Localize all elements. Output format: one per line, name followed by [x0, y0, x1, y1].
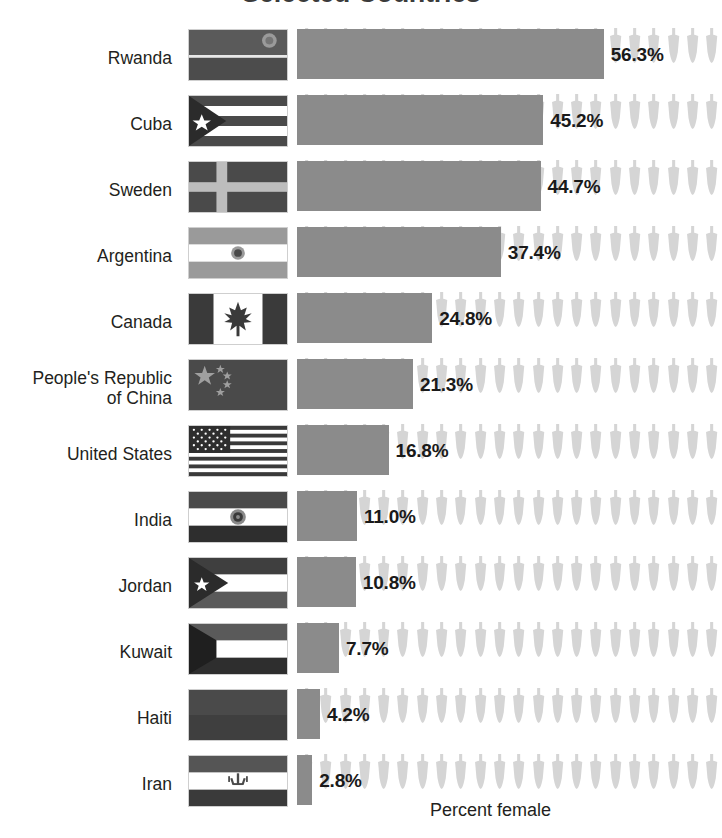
value-bar	[297, 359, 413, 409]
rwanda-flag	[188, 29, 288, 81]
value-bar	[297, 227, 501, 277]
person-icon	[471, 424, 490, 470]
person-icon	[490, 688, 509, 734]
person-icon	[567, 226, 586, 272]
person-icon	[509, 688, 528, 734]
person-icon	[509, 490, 528, 536]
china-flag	[188, 359, 288, 411]
pictogram-strip	[297, 490, 722, 542]
person-icon	[625, 358, 644, 404]
person-icon	[606, 160, 625, 206]
person-icon	[490, 622, 509, 668]
person-icon	[451, 556, 470, 602]
value-label: 37.4%	[508, 242, 561, 264]
person-icon	[683, 424, 702, 470]
person-icon	[586, 226, 605, 272]
person-icon	[683, 94, 702, 140]
person-icon	[393, 622, 412, 668]
jordan-flag	[188, 557, 288, 609]
person-icon	[625, 490, 644, 536]
person-icon	[625, 292, 644, 338]
value-label: 21.3%	[420, 374, 473, 396]
person-icon	[529, 424, 548, 470]
person-icon	[625, 688, 644, 734]
value-bar	[297, 689, 320, 739]
chart-row: Cuba	[0, 91, 722, 157]
person-icon	[586, 358, 605, 404]
person-icon	[664, 292, 683, 338]
person-icon	[567, 490, 586, 536]
person-icon	[529, 358, 548, 404]
person-icon	[413, 688, 432, 734]
person-icon	[702, 94, 721, 140]
chart-row: Canada	[0, 289, 722, 355]
united-states-flag	[188, 425, 288, 477]
person-icon	[451, 424, 470, 470]
person-icon	[586, 490, 605, 536]
person-icon	[393, 688, 412, 734]
chart-rows: Rwanda	[0, 25, 722, 817]
person-icon	[625, 226, 644, 272]
person-icon	[509, 556, 528, 602]
person-icon	[548, 754, 567, 800]
person-icon	[606, 358, 625, 404]
person-icon	[683, 490, 702, 536]
iran-flag	[188, 755, 288, 807]
chart-row: Rwanda	[0, 25, 722, 91]
person-icon	[625, 160, 644, 206]
pictogram-strip	[297, 556, 722, 608]
row-plot-area: 21.3%	[297, 357, 722, 413]
person-icon	[702, 160, 721, 206]
chart-row: Iran	[0, 751, 722, 817]
person-icon	[509, 358, 528, 404]
country-label: India	[0, 510, 172, 530]
sweden-flag	[188, 161, 288, 213]
value-bar	[297, 293, 432, 343]
person-icon	[586, 754, 605, 800]
person-icon	[644, 424, 663, 470]
country-label: Jordan	[0, 576, 172, 596]
person-icon	[644, 160, 663, 206]
country-label: People's Republic of China	[0, 368, 172, 408]
person-icon	[683, 160, 702, 206]
chart-row: India	[0, 487, 722, 553]
person-icon	[432, 688, 451, 734]
person-icon	[702, 292, 721, 338]
person-icon	[644, 754, 663, 800]
chart-row: Argentina	[0, 223, 722, 289]
x-axis-label: Percent female	[430, 800, 551, 821]
person-icon	[664, 622, 683, 668]
value-label: 16.8%	[396, 440, 449, 462]
person-icon	[509, 424, 528, 470]
person-icon	[644, 688, 663, 734]
value-label: 7.7%	[346, 638, 389, 660]
person-icon	[567, 424, 586, 470]
person-icon	[664, 424, 683, 470]
country-label: Argentina	[0, 246, 172, 266]
chart-row: Sweden	[0, 157, 722, 223]
person-icon	[393, 754, 412, 800]
value-bar	[297, 29, 604, 79]
value-label: 11.0%	[364, 506, 416, 528]
value-bar	[297, 557, 356, 607]
person-icon	[548, 556, 567, 602]
person-icon	[683, 292, 702, 338]
person-icon	[683, 226, 702, 272]
country-label: Sweden	[0, 180, 172, 200]
person-icon	[490, 556, 509, 602]
person-icon	[606, 292, 625, 338]
person-icon	[548, 688, 567, 734]
row-plot-area: 4.2%	[297, 687, 722, 743]
country-label: Haiti	[0, 708, 172, 728]
person-icon	[529, 622, 548, 668]
person-icon	[548, 358, 567, 404]
person-icon	[509, 622, 528, 668]
person-icon	[606, 490, 625, 536]
person-icon	[567, 688, 586, 734]
row-plot-area: 45.2%	[297, 93, 722, 149]
person-icon	[374, 688, 393, 734]
row-plot-area: 56.3%	[297, 27, 722, 83]
person-icon	[490, 754, 509, 800]
person-icon	[451, 754, 470, 800]
canada-flag	[188, 293, 288, 345]
